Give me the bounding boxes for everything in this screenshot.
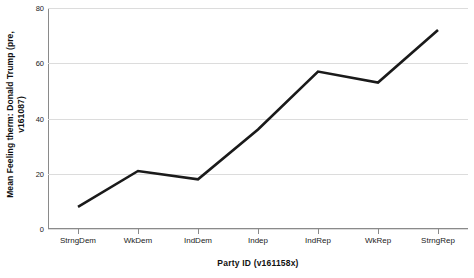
- y-axis-tick-label: 40: [36, 114, 44, 123]
- y-axis-tick-label: 60: [36, 59, 44, 68]
- x-axis: StrngDemWkDemIndDemIndepIndRepWkRepStrng…: [48, 229, 468, 255]
- x-axis-tick-label: WkRep: [365, 236, 391, 245]
- x-axis-tick-mark: [318, 229, 319, 234]
- x-axis-tick-mark: [198, 229, 199, 234]
- x-axis-tick-label: IndRep: [305, 236, 331, 245]
- x-axis-tick-mark: [258, 229, 259, 234]
- y-axis-tick-label: 20: [36, 169, 44, 178]
- y-axis-tick-label: 80: [36, 4, 44, 13]
- x-axis-tick-label: Indep: [248, 236, 268, 245]
- x-axis-title: Party ID (v161158x): [48, 258, 468, 268]
- chart-container: Mean Feeling therm: Donald Trump (pre, v…: [0, 0, 474, 278]
- y-axis-tick-labels: 020406080: [26, 0, 48, 228]
- y-axis-tick-label: 0: [40, 225, 44, 234]
- x-axis-tick-label: StrngRep: [421, 236, 455, 245]
- x-axis-tick-mark: [438, 229, 439, 234]
- x-axis-tick-label: StrngDem: [60, 236, 96, 245]
- series-polyline: [78, 30, 438, 207]
- plot-area: [48, 8, 468, 229]
- line-series: [48, 8, 468, 229]
- y-axis-title-line1: Mean Feeling therm: Donald Trump (pre,: [5, 31, 16, 198]
- x-axis-tick-label: WkDem: [124, 236, 152, 245]
- y-axis-title-line2: v161087): [15, 31, 26, 198]
- x-axis-tick-mark: [138, 229, 139, 234]
- x-axis-tick-label: IndDem: [184, 236, 212, 245]
- x-axis-tick-mark: [378, 229, 379, 234]
- x-axis-tick-mark: [78, 229, 79, 234]
